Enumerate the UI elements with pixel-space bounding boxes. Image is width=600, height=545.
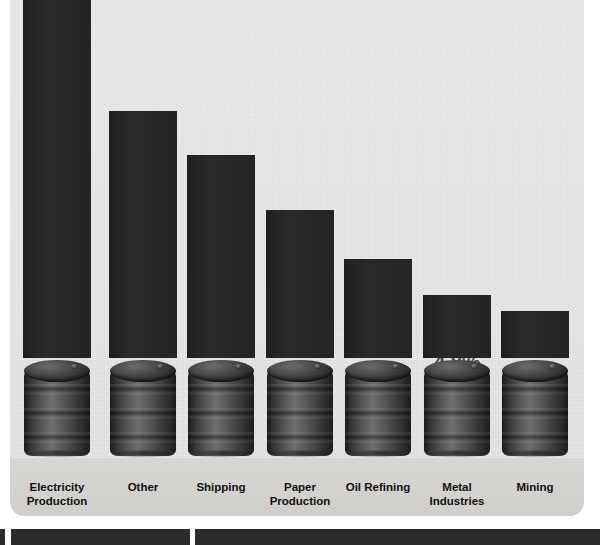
category-label-band: Electricity Production Other Shipping Pa…: [10, 458, 584, 516]
oil-barrel-icon: [109, 358, 177, 458]
bar: [23, 0, 91, 358]
strip-edge: [0, 529, 5, 545]
oil-barrel-icon: [501, 358, 569, 458]
oil-barrel-icon: [344, 358, 412, 458]
strip-segment-right: [195, 529, 600, 545]
oil-barrel-icon: [266, 358, 334, 458]
bar: [187, 155, 255, 358]
bottom-strip: [0, 529, 600, 545]
bar: [501, 311, 569, 358]
chart-panel: 32.7% 21.4% 17.4% 12.3%: [10, 0, 584, 516]
plot-area: 32.7% 21.4% 17.4% 12.3%: [10, 0, 584, 516]
category-label: Mining: [487, 481, 583, 495]
bar: [423, 295, 491, 358]
category-label: Electricity Production: [10, 481, 105, 508]
oil-barrel-icon: [187, 358, 255, 458]
bar: [266, 210, 334, 358]
oil-barrel-icon: [23, 358, 91, 458]
bar: [344, 259, 412, 358]
bar: [109, 111, 177, 358]
oil-barrel-icon: [423, 358, 491, 458]
strip-segment-left: [11, 529, 190, 545]
